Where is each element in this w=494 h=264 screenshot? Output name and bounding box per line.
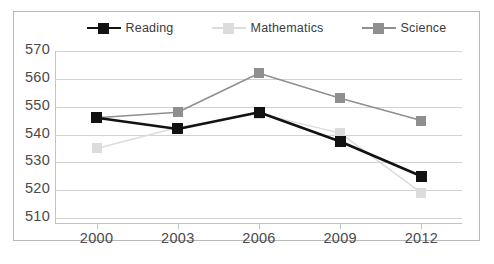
data-point-marker[interactable]	[335, 93, 345, 103]
x-axis-labels: 20002003200620092012	[56, 230, 462, 250]
data-point-marker[interactable]	[172, 123, 183, 134]
gridline	[56, 218, 462, 219]
y-tick-label: 570	[4, 41, 50, 57]
chart-figure: ReadingMathematicsScience 51052053054055…	[0, 0, 494, 264]
x-tickmark	[340, 224, 341, 229]
y-tick-label: 560	[4, 69, 50, 85]
data-point-marker[interactable]	[335, 136, 346, 147]
x-tickmark	[97, 224, 98, 229]
data-point-marker[interactable]	[416, 188, 426, 198]
data-point-marker[interactable]	[173, 107, 183, 117]
data-point-marker[interactable]	[254, 68, 264, 78]
legend-swatch-icon	[362, 22, 396, 34]
legend-item-science[interactable]: Science	[362, 21, 447, 35]
x-tick-label: 2009	[323, 230, 356, 246]
y-tick-label: 510	[4, 208, 50, 224]
x-tick-label: 2003	[161, 230, 194, 246]
y-tick-label: 520	[4, 180, 50, 196]
data-point-marker[interactable]	[92, 143, 102, 153]
data-point-marker[interactable]	[416, 116, 426, 126]
legend-label: Mathematics	[251, 21, 324, 35]
legend-item-reading[interactable]: Reading	[87, 21, 174, 35]
plot-area	[56, 51, 462, 218]
y-tick-label: 550	[4, 97, 50, 113]
legend-swatch-icon	[212, 22, 246, 34]
chart-legend: ReadingMathematicsScience	[13, 12, 480, 44]
x-tickmark	[178, 224, 179, 229]
y-tick-label: 540	[4, 125, 50, 141]
data-point-marker[interactable]	[91, 112, 102, 123]
series-layer	[56, 51, 462, 218]
y-axis-labels: 510520530540550560570	[0, 51, 50, 224]
data-point-marker[interactable]	[416, 171, 427, 182]
x-tick-label: 2000	[80, 230, 113, 246]
x-tick-label: 2006	[242, 230, 275, 246]
legend-label: Reading	[126, 21, 174, 35]
x-tick-label: 2012	[405, 230, 438, 246]
y-tick-label: 530	[4, 152, 50, 168]
series-line	[97, 112, 422, 176]
legend-item-mathematics[interactable]: Mathematics	[212, 21, 324, 35]
x-tickmark	[421, 224, 422, 229]
legend-swatch-icon	[87, 22, 121, 34]
legend-label: Science	[401, 21, 447, 35]
series-mathematics	[92, 109, 427, 198]
data-point-marker[interactable]	[254, 107, 265, 118]
x-tickmark	[259, 224, 260, 229]
